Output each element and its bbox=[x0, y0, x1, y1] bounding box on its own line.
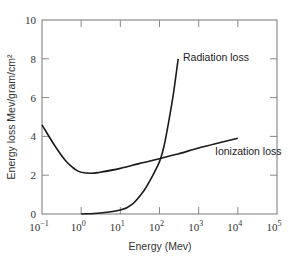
y-tick-label: 10 bbox=[25, 14, 37, 26]
x-tick-label: 102 bbox=[149, 219, 164, 233]
energy-loss-chart: 0246810 10−1100101102103104105 Radiation… bbox=[0, 0, 300, 256]
x-tick-label: 101 bbox=[110, 219, 125, 233]
y-tick-label: 4 bbox=[31, 130, 37, 142]
x-axis-title: Energy (Mev) bbox=[128, 240, 191, 252]
radiation-loss-curve bbox=[81, 59, 178, 214]
x-tick-label: 104 bbox=[227, 219, 242, 233]
ionization-loss-curve bbox=[42, 125, 238, 174]
y-tick-label: 2 bbox=[31, 169, 37, 181]
x-tick-label: 100 bbox=[71, 219, 86, 233]
y-tick-label: 0 bbox=[31, 208, 37, 220]
y-axis: 0246810 bbox=[25, 14, 277, 220]
x-tick-label: 103 bbox=[188, 219, 203, 233]
curves bbox=[42, 59, 238, 214]
y-tick-label: 6 bbox=[31, 92, 37, 104]
ionization-loss-label: Ionization loss bbox=[215, 145, 282, 157]
y-tick-label: 8 bbox=[31, 53, 37, 65]
y-axis-title: Energy loss Mev/gram/cm² bbox=[5, 54, 17, 179]
x-tick-label: 105 bbox=[267, 219, 282, 233]
radiation-loss-label: Radiation loss bbox=[183, 51, 249, 63]
plot-frame bbox=[42, 20, 277, 214]
x-tick-label: 10−1 bbox=[29, 219, 49, 233]
